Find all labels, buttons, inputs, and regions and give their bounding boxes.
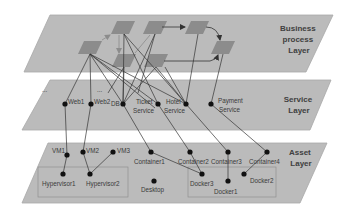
node-desktop[interactable] [151,178,156,183]
node-container4[interactable] [264,149,269,154]
node-vm3[interactable] [110,149,115,154]
node-web2[interactable] [88,101,93,106]
label-vm3: VM3 [117,147,130,154]
node-web1[interactable] [62,101,67,106]
node-payment-service[interactable] [208,101,213,106]
label-docker3: Docker3 [190,180,214,187]
label-web1: Web1 [68,98,85,105]
node-db[interactable] [120,101,125,106]
node-docker1[interactable] [225,178,230,183]
node-vm2[interactable] [80,149,85,154]
node-docker2[interactable] [241,171,246,176]
label-db: DB [111,100,120,107]
node-hotel-service[interactable] [183,101,188,106]
label-container3: Container3 [211,158,242,165]
asset-layer-plane [22,143,327,203]
node-hypervisor2[interactable] [87,171,92,176]
node-vm1[interactable] [64,152,69,157]
label-hypervisor1: Hypervisor1 [42,180,76,188]
node-hypervisor1[interactable] [60,171,65,176]
layered-architecture-diagram: Business process Layer Service Layer Ass… [0,0,349,212]
label-container4: Container4 [249,158,280,165]
node-ticket-service[interactable] [155,101,160,106]
ellipsis-label-2: ... [97,86,102,93]
label-web2: Web2 [94,98,111,105]
label-docker1: Docker1 [214,188,238,195]
label-container1: Container1 [134,158,165,165]
label-docker2: Docker2 [250,177,274,184]
node-container1[interactable] [148,149,153,154]
label-container2: Container2 [178,158,209,165]
label-vm2: VM2 [86,147,99,154]
ellipsis-label-1: ... [42,86,47,93]
label-desktop: Desktop [141,186,165,194]
node-container2[interactable] [187,149,192,154]
label-hypervisor2: Hypervisor2 [86,180,120,188]
node-container3[interactable] [225,149,230,154]
label-vm1: VM1 [52,147,65,154]
node-docker3[interactable] [199,171,204,176]
